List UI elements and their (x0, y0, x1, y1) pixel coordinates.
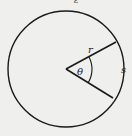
arc-label: s (121, 64, 126, 75)
angle-arc (88, 57, 92, 83)
top-fragment-label: ε (74, 0, 78, 5)
radius-label: r (88, 44, 94, 55)
angle-label: θ (77, 66, 83, 77)
circle-sector-diagram: r θ s ε (0, 0, 132, 136)
radius-lower (66, 69, 113, 98)
